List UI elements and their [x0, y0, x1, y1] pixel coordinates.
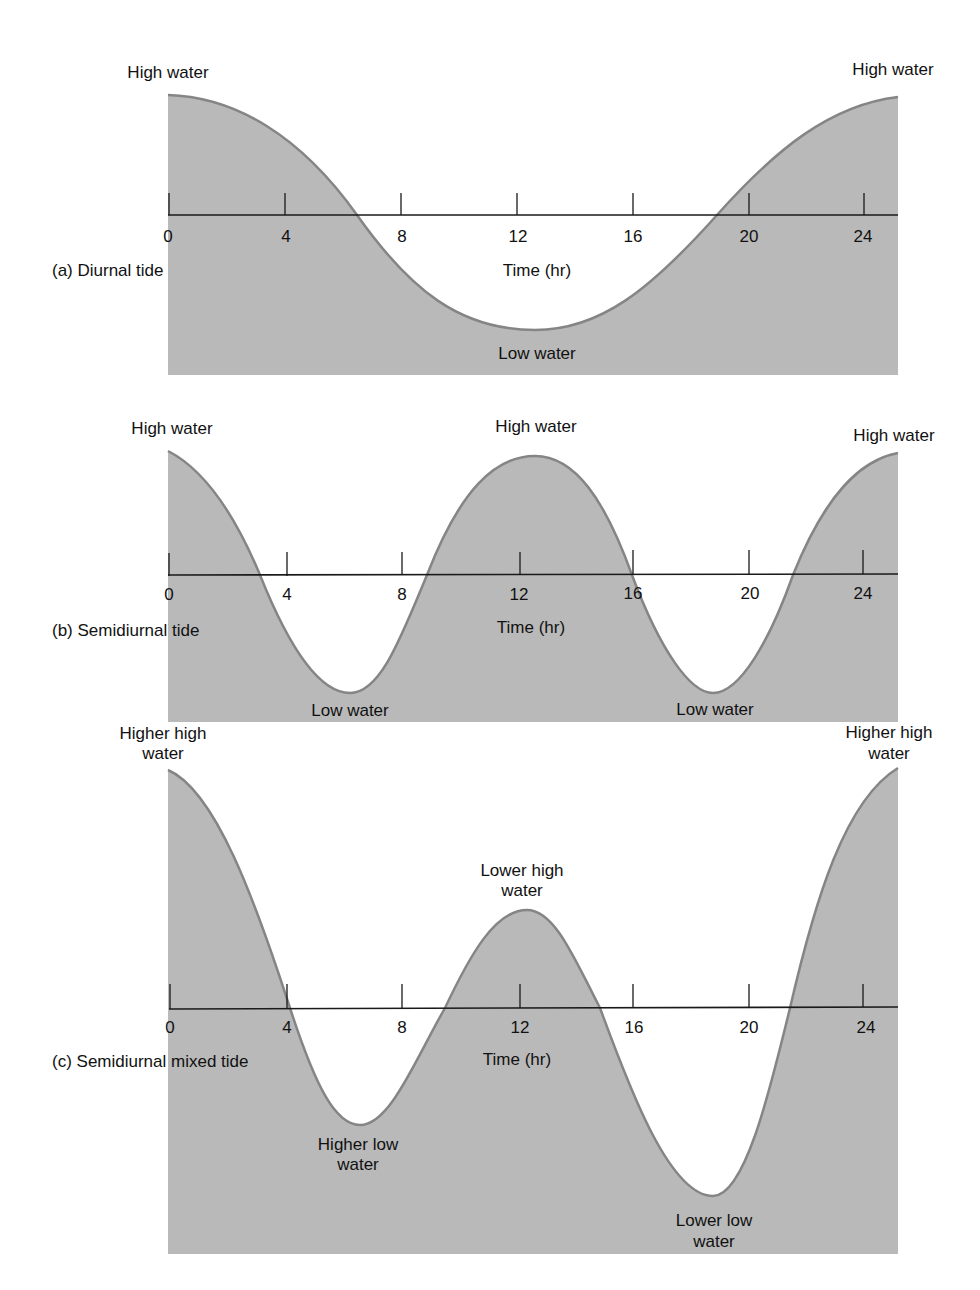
tick-label: 24 [857, 1018, 876, 1037]
tick-label: 20 [740, 1018, 759, 1037]
tick-label: 16 [624, 584, 643, 603]
tick-label: 24 [854, 227, 873, 246]
tick-label: 8 [397, 227, 406, 246]
label-higher-low-water: water [336, 1155, 379, 1174]
panel-semidiurnal-tide: 0 4 8 12 16 20 24 (b) Semidiurnal tide T… [52, 417, 935, 722]
label-higher-high-water: Higher high [846, 723, 933, 742]
tick-label: 8 [397, 585, 406, 604]
label-high-water: High water [131, 419, 213, 438]
panel-caption-a: (a) Diurnal tide [52, 261, 164, 280]
tick-label: 12 [511, 1018, 530, 1037]
tick-label: 20 [741, 584, 760, 603]
label-high-water: High water [853, 426, 935, 445]
axis-label-a: Time (hr) [503, 261, 571, 280]
label-higher-low-water: Higher low [318, 1135, 399, 1154]
label-higher-high-water: Higher high [120, 724, 207, 743]
label-lower-high-water: water [500, 881, 543, 900]
label-lower-low-water: Lower low [676, 1211, 753, 1230]
tick-label: 16 [625, 1018, 644, 1037]
label-high-water: High water [852, 60, 934, 79]
water-area-a [168, 95, 898, 375]
axis-label-b: Time (hr) [497, 618, 565, 637]
label-higher-high-water: water [867, 744, 910, 763]
tick-label: 24 [854, 584, 873, 603]
tick-label: 4 [282, 1018, 291, 1037]
tick-label: 4 [281, 227, 290, 246]
tick-label: 16 [624, 227, 643, 246]
label-high-water: High water [495, 417, 577, 436]
tick-label: 0 [164, 585, 173, 604]
label-higher-high-water: water [141, 744, 184, 763]
panel-diurnal-tide: 0 4 8 12 16 20 24 (a) Diurnal tide Time … [52, 60, 934, 375]
tick-label: 0 [165, 1018, 174, 1037]
tick-label: 20 [740, 227, 759, 246]
tick-label: 4 [282, 585, 291, 604]
label-lower-high-water: Lower high [480, 861, 563, 880]
label-low-water: Low water [311, 701, 389, 720]
time-axis-b [168, 574, 898, 575]
panel-caption-b: (b) Semidiurnal tide [52, 621, 199, 640]
tick-label: 12 [510, 585, 529, 604]
axis-label-c: Time (hr) [483, 1050, 551, 1069]
label-high-water: High water [127, 63, 209, 82]
label-low-water: Low water [498, 344, 576, 363]
tick-label: 0 [163, 227, 172, 246]
panel-semidiurnal-mixed-tide: 0 4 8 12 16 20 24 (c) Semidiurnal mixed … [52, 723, 932, 1254]
label-lower-low-water: water [692, 1232, 735, 1251]
panel-caption-c: (c) Semidiurnal mixed tide [52, 1052, 249, 1071]
tick-label: 8 [397, 1018, 406, 1037]
tide-diagram: 0 4 8 12 16 20 24 (a) Diurnal tide Time … [0, 0, 980, 1290]
label-low-water: Low water [676, 700, 754, 719]
tick-label: 12 [509, 227, 528, 246]
